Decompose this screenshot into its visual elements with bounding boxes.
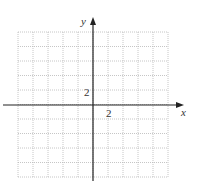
y-axis-label: y — [80, 15, 86, 27]
coordinate-plane: x y 2 2 — [0, 0, 199, 181]
x-axis-label: x — [180, 106, 186, 118]
y-axis-arrow-icon — [90, 17, 96, 25]
x-tick-label: 2 — [106, 107, 112, 119]
y-tick-label: 2 — [84, 86, 90, 98]
